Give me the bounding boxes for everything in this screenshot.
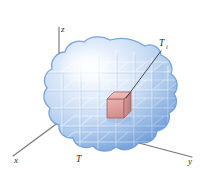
figure-container: z x y	[0, 0, 201, 169]
blob-figure-diagram: z x y	[0, 0, 201, 169]
element-cube-label: T	[159, 38, 165, 48]
body-label: T	[76, 154, 82, 164]
z-axis-label: z	[60, 24, 65, 34]
blob-highlight	[58, 46, 114, 86]
y-axis-label: y	[187, 156, 192, 166]
element-cube-label-subscript: i	[166, 44, 168, 50]
element-cube-front-face	[107, 99, 124, 118]
x-axis-label: x	[13, 155, 18, 165]
x-axis: x	[13, 122, 59, 165]
element-cube	[106, 92, 132, 123]
